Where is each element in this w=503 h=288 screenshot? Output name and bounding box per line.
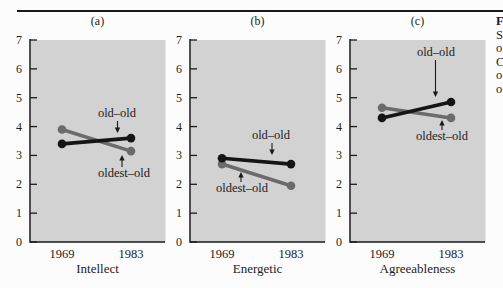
annotation-old-old: old–old <box>69 106 165 121</box>
caption-fragment: o <box>496 42 503 56</box>
y-tick-label: 1 <box>164 206 182 220</box>
y-tick-label: 4 <box>164 120 182 134</box>
y-tick-label: 5 <box>164 91 182 105</box>
x-label-1983: 1983 <box>111 247 151 262</box>
three-panel-line-chart <box>0 0 503 288</box>
data-point-old-old-1969 <box>58 140 67 149</box>
caption-fragment: C <box>496 56 503 70</box>
data-point-old-old-1983 <box>127 134 136 143</box>
data-point-oldest-old-1969 <box>378 104 387 113</box>
annotation-oldest-old: oldest–old <box>76 166 172 181</box>
data-point-oldest-old-1983 <box>447 114 456 123</box>
x-label-1983: 1983 <box>271 247 311 262</box>
caption-fragment: o <box>496 83 503 97</box>
y-tick-label: 3 <box>164 148 182 162</box>
annotation-old-old: old–old <box>223 128 319 143</box>
y-tick-label: 7 <box>324 33 342 47</box>
y-tick-label: 1 <box>324 206 342 220</box>
y-tick-label: 6 <box>324 62 342 76</box>
y-tick-label: 7 <box>4 33 22 47</box>
y-tick-label: 6 <box>164 62 182 76</box>
y-tick-label: 0 <box>324 235 342 249</box>
data-point-old-old-1969 <box>218 154 227 163</box>
panel-label-a: (a) <box>30 14 165 29</box>
y-tick-label: 5 <box>4 91 22 105</box>
data-point-old-old-1983 <box>447 98 456 107</box>
y-tick-label: 1 <box>4 206 22 220</box>
annotation-oldest-old: oldest–old <box>194 181 290 196</box>
y-tick-label: 4 <box>324 120 342 134</box>
y-tick-label: 2 <box>164 177 182 191</box>
x-label-1983: 1983 <box>431 247 471 262</box>
data-point-old-old-1983 <box>287 160 296 169</box>
panel-label-c: (c) <box>350 14 485 29</box>
annotation-old-old: old–old <box>388 45 484 60</box>
y-tick-label: 0 <box>164 235 182 249</box>
y-tick-label: 3 <box>4 148 22 162</box>
textbook-figure: 01234567old–oldoldest–old(a)19691983Inte… <box>0 0 503 288</box>
y-tick-label: 5 <box>324 91 342 105</box>
y-tick-label: 7 <box>164 33 182 47</box>
data-point-old-old-1969 <box>378 114 387 123</box>
y-tick-label: 6 <box>4 62 22 76</box>
axis-title-energetic: Energetic <box>190 261 325 277</box>
axis-title-agreeableness: Agreeableness <box>350 261 485 277</box>
data-point-oldest-old-1983 <box>127 147 136 156</box>
data-point-oldest-old-1969 <box>58 125 67 134</box>
y-tick-label: 2 <box>4 177 22 191</box>
caption-fragment-column: FSoCoo <box>496 15 503 97</box>
x-label-1969: 1969 <box>202 247 242 262</box>
caption-fragment: o <box>496 69 503 83</box>
y-tick-label: 0 <box>4 235 22 249</box>
caption-fragment: F <box>496 15 503 29</box>
y-tick-label: 4 <box>4 120 22 134</box>
y-tick-label: 3 <box>324 148 342 162</box>
caption-fragment: S <box>496 29 503 43</box>
panel-label-b: (b) <box>190 14 325 29</box>
annotation-oldest-old: oldest–old <box>394 129 490 144</box>
axis-title-intellect: Intellect <box>30 261 165 277</box>
y-tick-label: 2 <box>324 177 342 191</box>
x-label-1969: 1969 <box>362 247 402 262</box>
x-label-1969: 1969 <box>42 247 82 262</box>
